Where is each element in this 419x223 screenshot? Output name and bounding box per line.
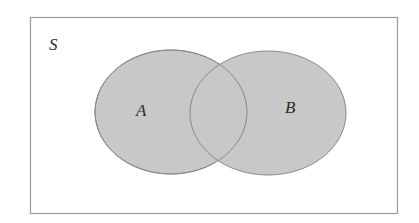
set-b-label: B bbox=[285, 98, 296, 117]
universe-label: S bbox=[49, 35, 58, 54]
set-b-ellipse bbox=[190, 51, 346, 175]
venn-diagram: S A B bbox=[0, 0, 419, 223]
set-a-label: A bbox=[135, 101, 147, 120]
